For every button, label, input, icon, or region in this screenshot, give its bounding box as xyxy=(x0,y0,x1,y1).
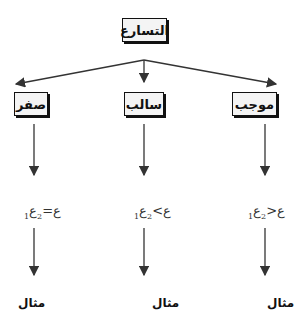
node-negative: سالب xyxy=(124,92,164,116)
node-positive: موجب xyxy=(232,92,277,116)
relation-negative: 1ع>2ع xyxy=(134,203,171,221)
node-zero-label: صفر xyxy=(16,97,46,112)
operator: > xyxy=(152,203,163,218)
velocity-symbol: ع xyxy=(29,203,37,218)
example-negative: مثال xyxy=(152,296,179,310)
velocity-symbol: ع xyxy=(253,203,261,218)
relation-zero: 1ع=2ع xyxy=(24,203,61,221)
relation-positive: 1ع<2ع xyxy=(248,203,285,221)
velocity-symbol: ع xyxy=(277,203,285,218)
node-positive-label: موجب xyxy=(235,97,274,112)
node-zero: صفر xyxy=(14,92,48,116)
operator: = xyxy=(42,203,53,218)
velocity-symbol: ع xyxy=(163,203,171,218)
operator: < xyxy=(266,203,277,218)
root-label: التسارع xyxy=(120,23,169,38)
example-zero: مثال xyxy=(18,296,45,310)
connector-arrows xyxy=(0,0,297,329)
example-positive: مثال xyxy=(267,296,294,310)
root-node-acceleration: التسارع xyxy=(122,18,167,42)
velocity-symbol: ع xyxy=(139,203,147,218)
velocity-symbol: ع xyxy=(53,203,61,218)
node-negative-label: سالب xyxy=(126,97,162,112)
